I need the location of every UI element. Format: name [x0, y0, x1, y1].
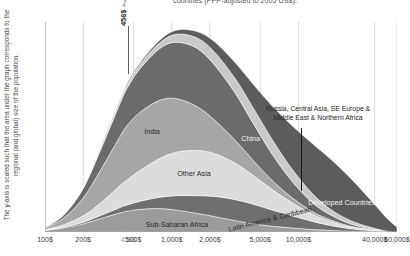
- x-tick-200: 200$: [75, 236, 91, 243]
- y-axis-caption-wrapper: The y-axis is scaled such that the area …: [3, 1, 37, 229]
- region-label-sub-saharan-africa: Sub-Saharan Africa: [146, 220, 208, 229]
- poverty-line-note: Poverty line of 1.25$ per day: [122, 0, 127, 7]
- x-tick-500: 500$: [126, 236, 142, 243]
- russia-mena-callout: Russia, Central Asia, SE Europe & Middle…: [238, 104, 398, 122]
- x-tick-2000: 2,000$: [199, 236, 220, 243]
- poverty-line-annotation: 456$ Poverty line of 1.25$ per day: [119, 0, 133, 26]
- x-tick-60000: 60,000$: [384, 236, 409, 243]
- chart-title: countries (PPP-adjusted to 2005 US$).: [120, 0, 350, 5]
- poverty-line-value: 456$: [119, 10, 128, 26]
- x-tick-10000: 10,000$: [286, 236, 311, 243]
- region-label-china: China: [241, 134, 260, 143]
- x-tick-100: 100$: [37, 236, 53, 243]
- region-label-india: India: [144, 127, 160, 136]
- x-tick-1000: 1,000$: [161, 236, 182, 243]
- callout-line-2: Middle East & Northern Africa: [238, 113, 398, 122]
- callout-line-1: Russia, Central Asia, SE Europe &: [238, 104, 398, 113]
- y-axis-caption: The y-axis is scaled such that the area …: [3, 1, 20, 229]
- region-label-other-asia: Other Asia: [177, 169, 211, 178]
- x-axis: 100$200$456$500$1,000$2,000$5,000$10,000…: [45, 232, 397, 252]
- plot-area: Sub-Saharan AfricaLatin America & Caribb…: [45, 22, 397, 232]
- region-label-developed-countries: Developed Countries: [308, 197, 375, 206]
- callout-leader-line: [301, 128, 302, 191]
- x-tick-5000: 5,000$: [250, 236, 271, 243]
